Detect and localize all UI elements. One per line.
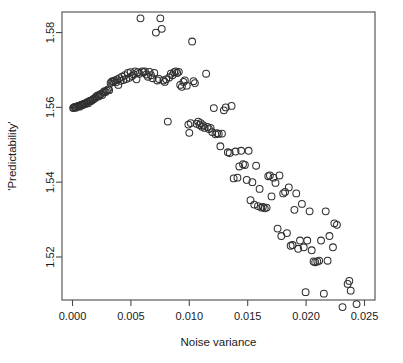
data-point — [164, 118, 171, 125]
data-point — [308, 247, 315, 254]
data-point — [158, 25, 165, 32]
data-point — [304, 237, 311, 244]
data-point — [322, 208, 329, 215]
data-point — [245, 147, 252, 154]
data-point — [282, 189, 289, 196]
data-point — [284, 230, 291, 237]
data-point — [324, 257, 331, 264]
data-point — [217, 143, 224, 150]
data-point — [157, 15, 164, 22]
x-axis-ticks: 0.0000.0050.0100.0150.0200.025 — [59, 300, 379, 322]
data-point — [291, 206, 298, 213]
data-point — [302, 289, 309, 296]
plot-border — [62, 12, 375, 300]
data-point — [186, 129, 193, 136]
data-point — [137, 15, 144, 22]
y-axis-title: 'Predictability' — [6, 121, 18, 191]
scatter-plot-figure: 0.0000.0050.0100.0150.0200.025 1.521.541… — [0, 0, 403, 363]
data-point — [203, 70, 210, 77]
data-point — [253, 162, 260, 169]
y-axis-ticks: 1.521.541.561.58 — [44, 22, 62, 268]
data-point — [274, 225, 281, 232]
data-point — [256, 186, 263, 193]
data-point — [330, 244, 337, 251]
data-points-group — [70, 15, 360, 311]
x-tick-label: 0.015 — [234, 310, 262, 322]
data-point — [210, 105, 217, 112]
data-point — [247, 197, 254, 204]
data-point — [285, 184, 292, 191]
y-tick-label: 1.58 — [44, 22, 56, 43]
plot-frame — [62, 12, 375, 300]
data-point — [306, 208, 313, 215]
x-tick-label: 0.010 — [176, 310, 204, 322]
data-point — [249, 179, 256, 186]
data-point — [189, 38, 196, 45]
data-point — [298, 200, 305, 207]
data-point — [293, 190, 300, 197]
x-axis-title: Noise variance — [180, 336, 256, 348]
y-tick-label: 1.54 — [44, 171, 56, 192]
data-point — [276, 172, 283, 179]
y-tick-label: 1.52 — [44, 246, 56, 267]
data-point — [192, 80, 199, 87]
data-point — [326, 233, 333, 240]
data-point — [339, 304, 346, 311]
x-tick-label: 0.005 — [117, 310, 145, 322]
data-point — [268, 193, 275, 200]
data-point — [318, 237, 325, 244]
data-point — [353, 301, 360, 308]
x-tick-label: 0.025 — [351, 310, 379, 322]
x-tick-label: 0.000 — [59, 310, 87, 322]
y-tick-label: 1.56 — [44, 97, 56, 118]
data-point — [297, 237, 304, 244]
x-tick-label: 0.020 — [292, 310, 320, 322]
data-point — [320, 290, 327, 297]
data-point — [347, 287, 354, 294]
plot-canvas: 0.0000.0050.0100.0150.0200.025 1.521.541… — [0, 0, 403, 363]
